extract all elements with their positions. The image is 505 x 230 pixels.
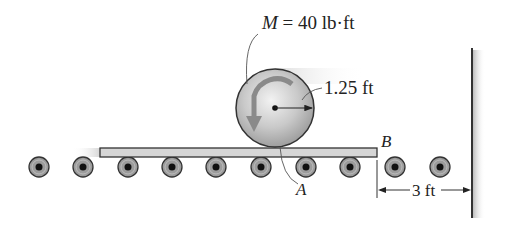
roller (118, 157, 138, 177)
roller (385, 157, 405, 177)
plank-shadow (72, 148, 102, 157)
point-a-label: A (295, 180, 307, 199)
moment-label: M = 40 lb·ft (261, 12, 355, 33)
roller (296, 157, 316, 177)
roller (206, 157, 226, 177)
plank (100, 148, 377, 157)
roller (162, 157, 182, 177)
rollers (29, 157, 450, 177)
radius-label: 1.25 ft (324, 77, 374, 98)
distance-label: 3 ft (412, 181, 435, 200)
roller (29, 157, 49, 177)
roller (251, 157, 271, 177)
roller (73, 157, 93, 177)
disc (236, 69, 314, 147)
diagram-canvas: M = 40 lb·ft 1.25 ft B A 3 ft (0, 0, 505, 230)
wall (472, 48, 485, 218)
roller (430, 157, 450, 177)
roller (340, 157, 360, 177)
point-b-label: B (381, 132, 392, 151)
